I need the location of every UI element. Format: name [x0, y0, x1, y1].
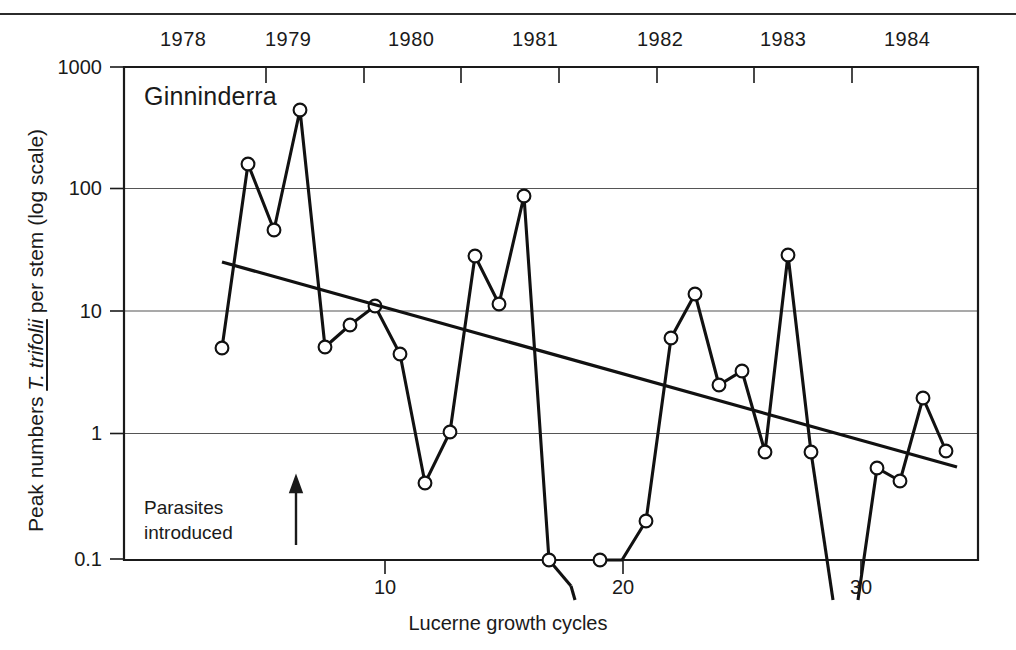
segment-f — [858, 398, 946, 600]
data-point — [805, 446, 818, 459]
ytick-label-0.1: 0.1 — [22, 548, 102, 571]
ytick-label-1000: 1000 — [22, 56, 102, 79]
gridlines — [124, 189, 978, 434]
data-point — [419, 477, 432, 490]
data-point — [871, 462, 884, 475]
data-point — [518, 190, 531, 203]
year-label-1981: 1981 — [512, 28, 559, 51]
data-point — [940, 445, 953, 458]
data-point — [469, 250, 482, 263]
data-point — [344, 319, 357, 332]
y-axis-title-species: T. trifolii — [24, 319, 47, 391]
data-point — [444, 426, 457, 439]
plot-frame — [123, 66, 979, 561]
annotation-line-1: Parasites — [144, 495, 233, 520]
year-axis-ticks — [266, 67, 852, 83]
figure-page: 1000 100 10 1 0.1 1978 1979 1980 1981 19… — [0, 0, 1016, 650]
data-point — [493, 298, 506, 311]
up-arrow-icon — [291, 477, 302, 545]
xtick-label-10: 10 — [355, 576, 415, 599]
year-label-1978: 1978 — [160, 28, 207, 51]
data-point — [294, 104, 307, 117]
panel-title: Ginninderra — [144, 82, 277, 111]
chart-figure: 1000 100 10 1 0.1 1978 1979 1980 1981 19… — [0, 0, 1016, 650]
data-point — [917, 392, 930, 405]
x-axis-title: Lucerne growth cycles — [0, 612, 1016, 635]
data-point — [216, 342, 229, 355]
data-series-line — [222, 110, 946, 600]
data-point — [268, 224, 281, 237]
data-point — [394, 348, 407, 361]
data-point — [759, 446, 772, 459]
offscale-strokes — [571, 586, 575, 600]
data-point — [894, 475, 907, 488]
x-axis-ticks — [385, 560, 861, 574]
year-label-1980: 1980 — [388, 28, 435, 51]
y-axis-title-pre: Peak numbers — [24, 391, 47, 532]
segment-a — [222, 110, 549, 560]
segment-e — [811, 452, 833, 600]
data-point — [713, 379, 726, 392]
data-markers — [216, 104, 953, 567]
data-point — [319, 341, 332, 354]
xtick-label-20: 20 — [593, 576, 653, 599]
annotation-line-2: introduced — [144, 520, 233, 545]
y-axis-title: Peak numbers T. trifolii per stem (log s… — [24, 129, 48, 532]
data-point — [640, 515, 653, 528]
y-axis-title-post: per stem (log scale) — [24, 129, 47, 319]
data-point — [782, 249, 795, 262]
year-label-1979: 1979 — [265, 28, 312, 51]
data-point — [689, 288, 702, 301]
data-point — [594, 554, 607, 567]
trend-line — [222, 262, 957, 467]
data-point — [543, 554, 556, 567]
data-point — [242, 158, 255, 171]
year-label-1983: 1983 — [760, 28, 807, 51]
year-label-1984: 1984 — [884, 28, 931, 51]
year-label-1982: 1982 — [637, 28, 684, 51]
y-axis-ticks — [110, 67, 124, 559]
annotation-parasites-introduced: Parasites introduced — [144, 495, 233, 545]
data-point — [665, 332, 678, 345]
data-point — [736, 365, 749, 378]
xtick-label-30: 30 — [831, 576, 891, 599]
